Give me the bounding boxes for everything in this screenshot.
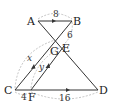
geometry-diagram: A B G E C F D 8 6 x y 4 16 <box>0 0 115 111</box>
arrow-bc-icon <box>31 64 36 69</box>
point-label-e: E <box>62 42 70 55</box>
point-label-f: F <box>28 91 36 104</box>
point-label-g: G <box>50 45 59 58</box>
measure-ab: 8 <box>53 9 59 19</box>
point-label-a: A <box>26 15 36 28</box>
measure-be: 6 <box>67 30 73 40</box>
segment-bc <box>15 21 72 90</box>
measure-fd: 16 <box>59 93 71 103</box>
measure-cg: x <box>27 53 32 63</box>
arrow-ab-icon <box>52 19 56 23</box>
point-label-b: B <box>73 15 81 28</box>
measure-fe: y <box>38 62 45 72</box>
point-label-c: C <box>4 84 12 97</box>
arrow-cd-icon <box>66 88 70 92</box>
measure-cf: 4 <box>21 92 27 102</box>
arrow-ef-icon <box>46 63 51 68</box>
point-label-d: D <box>99 84 108 97</box>
